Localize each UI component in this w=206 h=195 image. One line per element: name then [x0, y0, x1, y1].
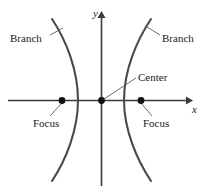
focus-left-leader: [50, 103, 62, 116]
branch-right-leader: [147, 27, 160, 35]
y-axis-label: y: [93, 8, 98, 19]
center-label: Center: [138, 72, 167, 83]
focus-right-point: [138, 97, 145, 104]
focus-left-label: Focus: [33, 118, 59, 129]
x-axis-label: x: [192, 104, 197, 115]
center-point: [98, 97, 105, 104]
center-leader: [104, 78, 136, 99]
branch-right-label: Branch: [162, 33, 194, 44]
focus-right-label: Focus: [143, 118, 169, 129]
hyperbola-graphic: [0, 0, 206, 195]
y-axis-arrowhead: [98, 11, 106, 18]
focus-right-leader: [141, 103, 152, 116]
hyperbola-figure: Branch Branch Center Focus Focus x y: [0, 0, 206, 195]
branch-left-label: Branch: [10, 33, 42, 44]
focus-left-point: [59, 97, 66, 104]
